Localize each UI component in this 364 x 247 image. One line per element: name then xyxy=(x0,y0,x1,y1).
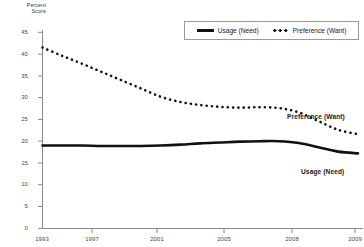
y-axis-ticks xyxy=(38,32,43,228)
legend-label-preference-want: Preference (Want) xyxy=(293,27,347,34)
legend: Usage (Need) Preference (Want) xyxy=(184,21,359,40)
legend-label-usage-need: Usage (Need) xyxy=(218,27,259,34)
line-chart: Percent Score 45 40 35 30 25 20 15 10 5 … xyxy=(0,0,364,247)
legend-item-usage-need: Usage (Need) xyxy=(197,27,259,34)
annotation-usage-need: Usage (Need) xyxy=(301,168,344,175)
series-line-preference-want xyxy=(43,48,359,135)
legend-swatch-dotted-line xyxy=(272,29,289,32)
legend-item-preference-want: Preference (Want) xyxy=(272,27,347,34)
annotation-preference-want: Preference (Want) xyxy=(287,113,345,120)
series-line-usage-need xyxy=(43,141,359,153)
x-axis-ticks xyxy=(92,229,355,234)
legend-swatch-solid-line xyxy=(197,29,214,32)
